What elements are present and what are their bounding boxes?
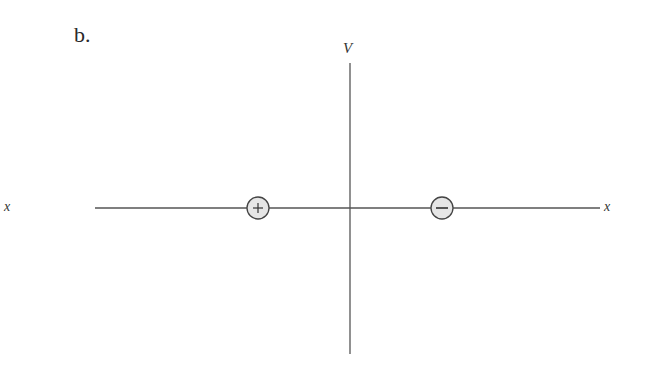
positive-charge bbox=[247, 197, 269, 219]
negative-charge bbox=[431, 197, 453, 219]
diagram-canvas bbox=[0, 0, 655, 383]
